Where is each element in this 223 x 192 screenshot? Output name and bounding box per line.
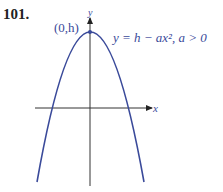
vertex-label: (0,h) [54, 20, 79, 35]
equation-label: y = h − ax², a > 0 [111, 30, 207, 45]
y-axis-label: y [87, 7, 93, 18]
vertex-point [88, 30, 92, 34]
x-axis-label: x [152, 102, 158, 114]
parabola-diagram: (0,h) y = h − ax², a > 0 x y [0, 0, 223, 192]
